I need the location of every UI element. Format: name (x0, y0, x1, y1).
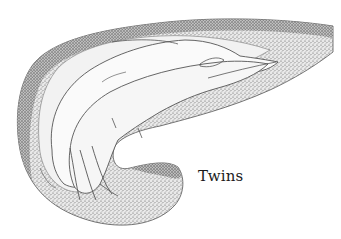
uterine-horn-drawing (0, 0, 341, 239)
figure-caption: Twins (198, 167, 243, 185)
twins-illustration: Twins (0, 0, 341, 239)
